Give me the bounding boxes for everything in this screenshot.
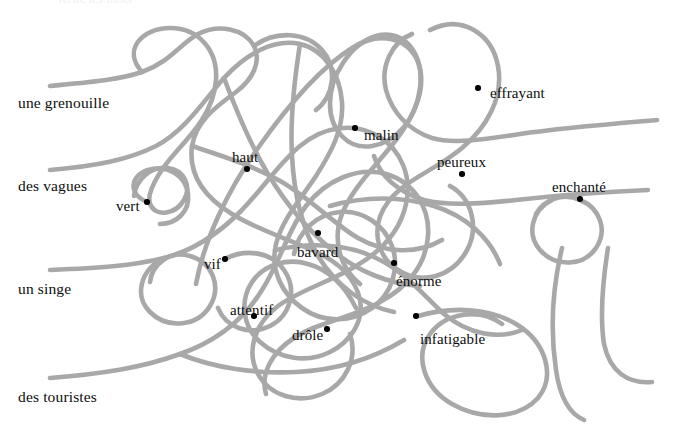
thread-enchante-loop: [532, 197, 601, 263]
adjective-anchor-dot: [413, 313, 419, 319]
adjective-label: peureux: [437, 155, 486, 170]
thread-infatigable-spiral: [418, 310, 547, 415]
adjective-anchor-dot: [324, 326, 330, 332]
adjective-anchor-dot: [244, 166, 250, 172]
adjective-label: énorme: [396, 274, 442, 289]
thread-loop-upper-left: [134, 28, 216, 213]
exercise-canvas: Relie les mots une grenouilledes vaguesu…: [0, 0, 673, 423]
noun-label: des vagues: [18, 178, 87, 194]
noun-label: des touristes: [18, 389, 97, 405]
adjective-label: bavard: [297, 245, 338, 260]
noun-label: une grenouille: [18, 95, 109, 111]
noun-label: un singe: [18, 281, 71, 297]
thread-des-vagues: [50, 43, 395, 320]
adjective-label: malin: [364, 128, 399, 143]
thread-right-column-b: [602, 248, 652, 382]
adjective-label: infatigable: [420, 332, 485, 347]
adjective-label: haut: [232, 150, 258, 165]
adjective-label: vert: [116, 199, 140, 214]
adjective-anchor-dot: [251, 313, 257, 319]
adjective-anchor-dot: [222, 256, 228, 262]
thread-des-touristes: [50, 172, 428, 394]
adjective-label: effrayant: [490, 86, 545, 101]
adjective-anchor-dot: [315, 230, 321, 236]
adjective-anchor-dot: [475, 85, 481, 91]
thread-right-column-a: [553, 248, 584, 420]
adjective-label: drôle: [292, 328, 323, 343]
adjective-label: enchanté: [552, 180, 606, 195]
adjective-label: vif: [204, 257, 221, 272]
adjective-anchor-dot: [144, 199, 150, 205]
adjective-anchor-dot: [577, 196, 583, 202]
adjective-anchor-dot: [352, 125, 358, 131]
thread-tangle: [0, 0, 673, 423]
adjective-anchor-dot: [459, 171, 465, 177]
thread-peureux-arc: [330, 199, 500, 265]
adjective-anchor-dot: [391, 260, 397, 266]
